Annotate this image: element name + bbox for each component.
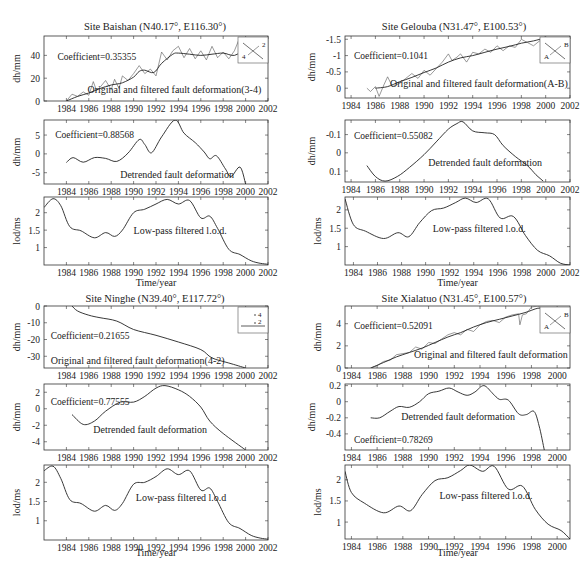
- x-tick-label: 1996: [488, 268, 507, 278]
- y-tick-label: -30: [27, 352, 40, 362]
- site-title: Site Ninghe (N39.40°, E117.72°): [85, 293, 225, 305]
- panel-annotation: Original and filtered fault deformation: [414, 349, 568, 360]
- panel-annotation: Low-pass filtered l.o.d.: [440, 490, 533, 501]
- y-tick-label: 20: [31, 74, 41, 84]
- x-tick-label: 1990: [419, 453, 438, 463]
- x-tick-label: 2000: [548, 453, 567, 463]
- x-tick-label: 2000: [236, 268, 255, 278]
- panel-1: 1984198619881990199219941996199820002002…: [11, 36, 278, 114]
- x-tick-label: 1990: [415, 101, 434, 111]
- y-axis-label: dh/mm: [11, 403, 22, 432]
- x-tick-label: 2002: [259, 371, 278, 381]
- svg-text:2: 2: [262, 41, 266, 49]
- svg-text:B: B: [564, 311, 569, 319]
- x-tick-label: 2002: [561, 101, 580, 111]
- x-tick-label: 1992: [445, 371, 464, 381]
- site-ninghe: Site Ninghe (N39.40°, E117.72°)198419861…: [11, 293, 278, 558]
- svg-text:A: A: [544, 323, 549, 331]
- x-tick-label: 2000: [536, 185, 555, 195]
- x-tick-label: 1988: [102, 543, 121, 553]
- y-axis-label: lod/ms: [312, 488, 323, 515]
- x-tick-label: 1984: [57, 268, 76, 278]
- y-axis-label: dh/mm: [312, 323, 323, 352]
- x-tick-label: 1988: [393, 371, 412, 381]
- y-axis-label: dh/mm: [306, 403, 317, 432]
- x-tick-label: 1994: [471, 371, 490, 381]
- x-axis-label: Time/year: [437, 547, 478, 558]
- x-tick-label: 2000: [236, 187, 255, 197]
- y-axis-label: lod/ms: [312, 217, 323, 244]
- svg-text:A: A: [544, 53, 549, 61]
- x-tick-label: 1998: [214, 543, 233, 553]
- x-tick-label: 1996: [191, 268, 210, 278]
- x-tick-label: 1990: [124, 453, 143, 463]
- y-tick-label: 0: [35, 149, 40, 159]
- y-tick-label: 0: [35, 404, 40, 414]
- x-tick-label: 1990: [124, 104, 143, 114]
- x-tick-label: 1984: [57, 453, 76, 463]
- x-tick-label: 2002: [259, 453, 278, 463]
- x-tick-label: 1998: [522, 453, 541, 463]
- coefficient-label: Coefficient=0.21655: [51, 331, 130, 341]
- x-tick-label: 1996: [191, 543, 210, 553]
- x-tick-label: 2000: [236, 104, 255, 114]
- y-tick-label: -20: [27, 335, 40, 345]
- y-tick-label: 2: [336, 475, 341, 485]
- y-tick-label: 1.5: [28, 226, 40, 236]
- coefficient-label: Coefficient=0.52091: [354, 321, 433, 331]
- x-tick-label: 1998: [512, 101, 531, 111]
- y-tick-label: -1.5: [326, 35, 341, 45]
- x-tick-label: 1992: [147, 104, 166, 114]
- figure: Site Baishan (N40.17°, E116.30°)19841986…: [0, 0, 588, 569]
- x-tick-label: 1986: [368, 453, 387, 463]
- x-tick-label: 1992: [147, 371, 166, 381]
- y-tick-label: -10: [27, 318, 40, 328]
- x-tick-label: 2000: [548, 371, 567, 381]
- panel-2: 1984198619881990199219941996199820002002…: [11, 384, 278, 463]
- x-tick-label: 1996: [191, 371, 210, 381]
- x-tick-label: 1996: [496, 371, 515, 381]
- x-tick-label: 1996: [191, 187, 210, 197]
- panel-1: 1984198619881990199219941996199820002002…: [11, 302, 278, 382]
- fault-inset-diagram: 24: [238, 37, 268, 63]
- x-tick-label: 2000: [536, 268, 555, 278]
- y-axis-label: dh/mm: [11, 54, 22, 83]
- site-xialatuo: Site Xialatuo (N31.45°, E100.57°)1984198…: [306, 293, 570, 558]
- x-tick-label: 1988: [390, 185, 409, 195]
- svg-text:2: 2: [258, 318, 262, 326]
- x-tick-label: 1992: [147, 453, 166, 463]
- panel-annotation: Detrended fault deformation: [401, 411, 515, 422]
- y-tick-label: -0.4: [326, 429, 341, 439]
- panel-annotation: Original and filtered fault deformation(…: [390, 78, 568, 90]
- panel-annotation: Detrended fault deformation: [428, 157, 542, 168]
- fault-inset-diagram: BA: [540, 307, 570, 333]
- x-tick-label: 1994: [463, 101, 482, 111]
- x-tick-label: 2002: [259, 268, 278, 278]
- svg-text:4: 4: [242, 53, 246, 61]
- site-gelouba: Site Gelouba (N31.47°, E100.53°)19841986…: [306, 21, 580, 288]
- x-tick-label: 1994: [463, 185, 482, 195]
- x-tick-label: 1988: [392, 268, 411, 278]
- panel-annotation: Original and filtered fault deformation(…: [87, 84, 261, 96]
- x-tick-label: 1986: [79, 187, 98, 197]
- panel-3: 1984198619881990199219941996199820002002…: [11, 197, 278, 278]
- x-tick-label: 1994: [169, 371, 188, 381]
- y-tick-label: 1: [35, 516, 40, 526]
- panel-annotation: Low-pass filtered l.o.d.: [433, 223, 526, 234]
- x-tick-label: 1986: [79, 453, 98, 463]
- x-tick-label: 2000: [236, 371, 255, 381]
- y-tick-label: 0: [35, 302, 40, 312]
- panel-annotation: Detrended fault deformation: [120, 169, 234, 180]
- x-tick-label: 1990: [415, 185, 434, 195]
- y-tick-label: 1.5: [329, 224, 341, 234]
- x-tick-label: 2000: [548, 542, 567, 552]
- x-tick-label: 1990: [419, 542, 438, 552]
- x-tick-label: 1984: [342, 542, 361, 552]
- x-tick-label: 1998: [512, 185, 531, 195]
- x-tick-label: 2002: [259, 187, 278, 197]
- series-lod: [345, 465, 570, 539]
- x-tick-label: 1986: [366, 185, 385, 195]
- x-tick-label: 1998: [214, 453, 233, 463]
- x-tick-label: 1992: [445, 453, 464, 463]
- x-tick-label: 1984: [344, 268, 363, 278]
